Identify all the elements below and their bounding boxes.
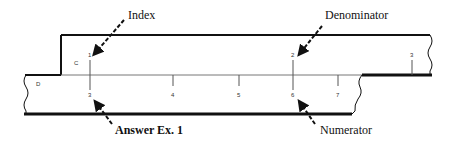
d-tick-4: 4 [171,92,175,98]
d-scale-ticks: 3 4 5 6 7 [88,75,340,98]
numerator-callout: Numerator [301,104,372,137]
c-tick-2: 2 [291,52,295,58]
index-callout: Index [96,8,155,52]
d-tick-5: 5 [237,92,241,98]
denominator-callout: Denominator [301,8,388,52]
d-tick-7: 7 [336,92,340,98]
answer-label: Answer Ex. 1 [115,123,183,137]
denominator-arrow-icon [301,26,322,52]
d-body [24,75,362,114]
c-tick-1: 1 [88,52,92,58]
c-scale-ticks: 1 2 3 [88,52,414,75]
denominator-label: Denominator [325,8,388,22]
d-tick-6: 6 [291,92,295,98]
numerator-label: Numerator [320,123,372,137]
slide-rule-diagram: C D 1 2 3 3 4 5 6 7 Index Denominator N [0,0,453,145]
d-scale-label: D [36,81,41,87]
c-tick-3: 3 [410,52,414,58]
d-tick-3: 3 [88,92,92,98]
answer-callout: Answer Ex. 1 [97,104,183,137]
c-slide [61,35,432,75]
c-scale-label: C [74,60,79,66]
index-label: Index [128,8,155,22]
